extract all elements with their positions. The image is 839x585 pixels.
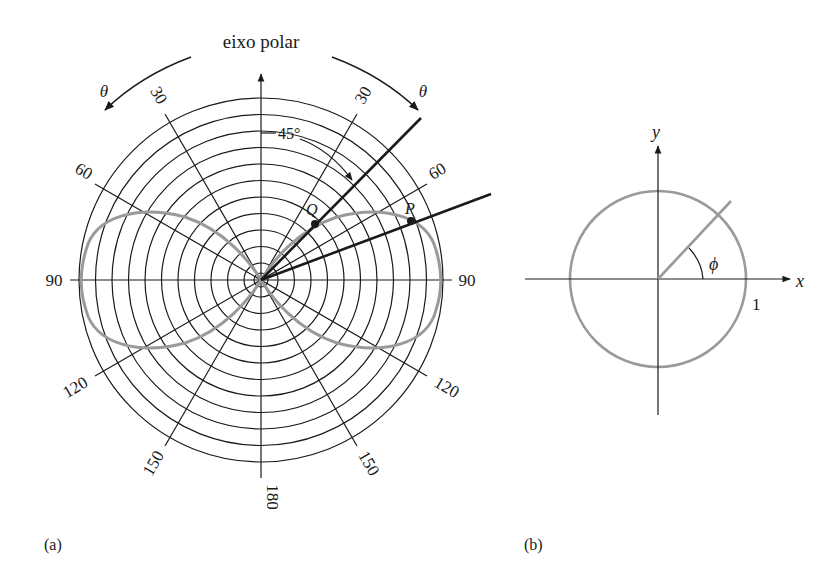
tick-right-120: 120 — [431, 373, 463, 402]
phi-angle-arc — [689, 248, 703, 279]
panel-a: eixo polar θ θ 45° Q P 30 30 60 60 90 90… — [44, 31, 491, 554]
tick-right-150: 150 — [354, 447, 383, 479]
angle-45-label: 45° — [278, 125, 300, 142]
point-q-marker — [311, 220, 319, 228]
point-q-label: Q — [306, 201, 318, 218]
phi-label: ϕ — [709, 254, 718, 274]
figure-canvas: eixo polar θ θ 45° Q P 30 30 60 60 90 90… — [0, 0, 839, 585]
tick-left-150: 150 — [139, 447, 168, 479]
theta-left-label: θ — [100, 82, 108, 101]
polar-grid-spokes — [70, 74, 452, 478]
theta-right-arrow — [332, 57, 418, 110]
y-axis-label: y — [650, 122, 660, 142]
polar-axis-title: eixo polar — [223, 31, 300, 52]
panel-a-label: (a) — [44, 536, 62, 554]
point-p-label: P — [404, 200, 415, 217]
x-axis-label: x — [795, 271, 804, 291]
panel-b-label: (b) — [524, 536, 543, 554]
tick-left-30: 30 — [146, 83, 171, 107]
theta-left-arrow — [105, 57, 191, 110]
panel-b: ϕ x y 1 (b) — [524, 122, 804, 554]
tick-left-90: 90 — [46, 271, 63, 290]
tick-right-90: 90 — [459, 271, 476, 290]
theta-right-label: θ — [419, 82, 427, 101]
tick-right-30: 30 — [351, 83, 376, 107]
tick-bottom-180: 180 — [263, 484, 282, 510]
phi-ray — [658, 201, 731, 279]
radius-one-label: 1 — [752, 295, 761, 314]
tick-right-60: 60 — [425, 159, 449, 184]
point-p-marker — [407, 217, 415, 225]
tick-left-60: 60 — [72, 159, 96, 184]
tick-left-120: 120 — [59, 373, 91, 402]
